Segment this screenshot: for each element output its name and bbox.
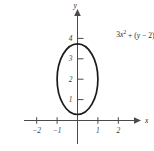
x-tick-label: 2 [116, 126, 120, 135]
y-tick-label: 1 [69, 95, 73, 104]
y-tick-label: 4 [69, 34, 73, 43]
y-axis: y [73, 1, 81, 144]
x-tick-label: −2 [32, 126, 41, 135]
coordinate-plot: x y −2 −1 1 2 [0, 0, 154, 151]
y-axis-arrowhead [74, 9, 81, 16]
equation-minus-two: − 2) [140, 31, 154, 40]
x-tick-label: 1 [96, 126, 100, 135]
y-tick-label: 3 [68, 54, 73, 63]
x-axis-label: x [144, 116, 149, 125]
x-axis: x [24, 116, 149, 125]
y-axis-label: y [73, 1, 78, 10]
math-figure: x y −2 −1 1 2 [0, 0, 154, 151]
equation-plus: + ( [126, 31, 137, 40]
x-tick-label: −1 [53, 126, 62, 135]
y-tick-label: 2 [69, 75, 73, 84]
y-tick-marks [78, 38, 84, 99]
equation-label: 3x2 + (y − 2)2 = 3 [103, 29, 154, 42]
x-axis-arrowhead [134, 117, 141, 124]
x-tick-labels: −2 −1 1 2 [32, 126, 120, 135]
